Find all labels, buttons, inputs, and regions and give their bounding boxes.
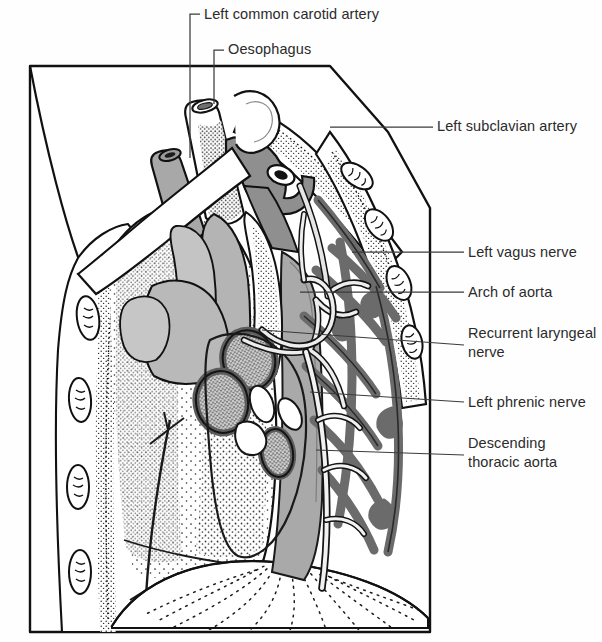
label-left-vagus-nerve: Left vagus nerve xyxy=(468,243,577,262)
intercostal-bundle-oval xyxy=(67,465,89,509)
label-descending-thoracic-aorta: Descending thoracic aorta xyxy=(468,434,557,472)
label-recurrent-laryngeal-nerve: Recurrent laryngeal nerve xyxy=(468,324,596,362)
thorax-anatomy-figure xyxy=(0,0,602,642)
label-left-phrenic-nerve: Left phrenic nerve xyxy=(468,393,586,412)
intercostal-bundle-oval xyxy=(69,550,91,594)
label-left-subclavian-artery: Left subclavian artery xyxy=(437,117,577,136)
label-oesophagus: Oesophagus xyxy=(228,40,311,59)
label-arch-of-aorta: Arch of aorta xyxy=(468,283,552,302)
label-left-common-carotid-artery: Left common carotid artery xyxy=(204,5,379,24)
